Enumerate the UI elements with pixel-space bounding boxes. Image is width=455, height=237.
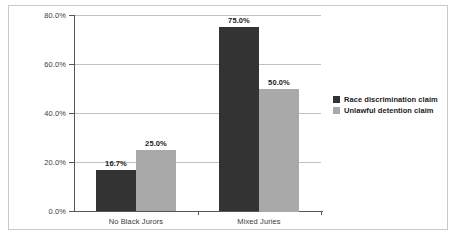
legend-item-0[interactable]: Race discrimination claim — [333, 94, 438, 104]
bar-value-label: 16.7% — [105, 159, 127, 168]
y-axis-label: 20.0% — [44, 158, 66, 167]
x-axis-tick — [321, 211, 322, 215]
y-axis-tick — [69, 15, 75, 16]
gridline-80.0% — [74, 15, 321, 16]
bar-value-label: 50.0% — [268, 78, 290, 87]
y-axis-label: 80.0% — [44, 11, 66, 20]
legend-label: Unlawful detention claim — [344, 106, 434, 115]
chart-frame: 0.0%20.0%40.0%60.0%80.0% 16.7%25.0%75.0%… — [8, 5, 448, 230]
bar-value-label: 75.0% — [228, 16, 250, 25]
x-axis-tick — [198, 211, 199, 215]
y-axis-tick — [69, 211, 75, 212]
y-axis-label: 40.0% — [44, 109, 66, 118]
bar-value-label: 25.0% — [145, 139, 167, 148]
legend-item-1[interactable]: Unlawful detention claim — [333, 105, 438, 115]
x-axis-category-label: No Black Jurors — [109, 217, 163, 226]
legend-swatch-icon — [333, 107, 340, 114]
y-axis-tick — [69, 113, 75, 114]
y-axis-label: 60.0% — [44, 60, 66, 69]
x-axis-category-label: Mixed Juries — [237, 217, 280, 226]
bar-mixed-juries-series-1[interactable] — [259, 89, 299, 212]
y-axis-tick — [69, 162, 75, 163]
bar-mixed-juries-series-0[interactable] — [219, 27, 259, 211]
chart-legend: Race discrimination claimUnlawful detent… — [333, 94, 438, 116]
legend-swatch-icon — [333, 96, 340, 103]
legend-label: Race discrimination claim — [344, 95, 438, 104]
y-axis-tick — [69, 64, 75, 65]
bar-no-black-jurors-series-0[interactable] — [96, 170, 136, 211]
bar-no-black-jurors-series-1[interactable] — [136, 150, 176, 211]
gridline-60.0% — [74, 64, 321, 65]
y-axis-label: 0.0% — [49, 207, 67, 216]
